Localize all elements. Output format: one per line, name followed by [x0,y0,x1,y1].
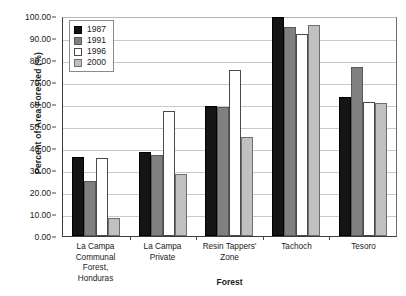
bar-1996 [363,102,375,236]
y-axis-tick-labels: 100.0090.0080.0070.0060.0050.0040.0030.0… [8,17,56,237]
bar-1991 [217,107,229,236]
y-axis-tick-mark [52,39,56,40]
bar-1991 [151,155,163,236]
legend-item-1996: 1996 [74,46,106,57]
x-axis-category-label-line: Tesoro [331,242,396,253]
y-axis-tick-mark [52,193,56,194]
x-axis-tick-mark [329,236,330,240]
chart-legend: 1987199119962000 [69,20,114,72]
bar-1996 [96,158,108,236]
bar-1996 [296,34,308,236]
y-axis-tick-label: 60.00 [30,101,51,110]
bar-2000 [375,103,387,236]
bar-1991 [284,27,296,236]
legend-swatch-icon [74,37,82,45]
y-axis-tick-label: 0.00 [34,233,51,242]
y-axis-tick-label: 70.00 [30,79,51,88]
bar-2000 [175,174,187,236]
x-axis-category-label-line: Zone [197,253,262,264]
bar-1987 [72,157,84,236]
y-axis-tick-mark [52,17,56,18]
bar-1991 [84,181,96,236]
x-axis-category-label-line: Communal Forest, [63,253,128,274]
y-axis-tick-mark [52,149,56,150]
bar-group [130,18,197,236]
x-axis-category-label-line: La Campa [63,242,128,253]
bar-2000 [241,137,253,236]
y-axis-tick-label: 50.00 [30,123,51,132]
y-axis-tick-mark [52,105,56,106]
y-axis-tick-mark [52,215,56,216]
y-axis-tick-label: 90.00 [30,35,51,44]
bar-1996 [229,70,241,236]
y-axis-tick-label: 30.00 [30,167,51,176]
bar-group [329,18,396,236]
bar-chart-figure: Percent of Area Forested (%) 100.0090.00… [0,0,406,296]
legend-item-label: 1996 [87,47,106,56]
y-axis-tick-label: 10.00 [30,211,51,220]
y-axis-tick-mark [52,237,56,238]
bar-2000 [108,218,120,236]
x-axis-tick-mark [196,236,197,240]
y-axis-tick-mark [52,127,56,128]
y-axis-tick-label: 80.00 [30,57,51,66]
x-axis-category-label-line: Resin Tappers' [197,242,262,253]
x-axis-tick-mark [130,236,131,240]
bar-1991 [351,67,363,236]
legend-item-label: 1991 [87,36,106,45]
bar-2000 [308,25,320,236]
y-axis-tick-label: 100.00 [25,13,51,22]
y-axis-tick-mark [52,83,56,84]
y-axis-tick-mark [52,171,56,172]
legend-item-label: 1987 [87,25,106,34]
bar-1987 [339,97,351,236]
x-axis-category-label-line: La Campa [130,242,195,253]
legend-item-label: 2000 [87,58,106,67]
x-axis-category-label-line: Tachoch [264,242,329,253]
legend-item-1991: 1991 [74,35,106,46]
legend-item-1987: 1987 [74,24,106,35]
bar-group [263,18,330,236]
bar-1987 [139,152,151,236]
bar-1996 [163,111,175,236]
x-axis-title: Forest [62,277,397,287]
y-axis-tick-mark [52,61,56,62]
legend-item-2000: 2000 [74,57,106,68]
legend-swatch-icon [74,48,82,56]
y-axis-tick-label: 40.00 [30,145,51,154]
x-axis-category-label-line: Private [130,253,195,264]
legend-swatch-icon [74,59,82,67]
bar-group [196,18,263,236]
legend-swatch-icon [74,26,82,34]
bar-1987 [205,106,217,236]
y-axis-tick-label: 20.00 [30,189,51,198]
x-axis-tick-mark [263,236,264,240]
bar-1987 [272,17,284,236]
